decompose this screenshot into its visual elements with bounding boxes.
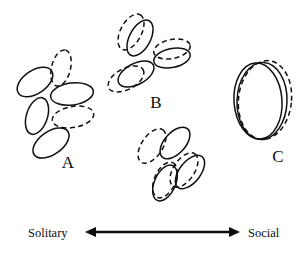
ellipse-diagram: A B C Solitary Social — [0, 0, 302, 254]
solitary-social-axis — [85, 227, 240, 237]
ellipse-b-6-solid — [114, 56, 158, 93]
ellipse-c-1-solid — [231, 61, 284, 140]
ellipse-b-7-dashed — [132, 124, 171, 168]
ellipse-a-3-solid — [49, 80, 95, 108]
ellipse-b-5-dashed — [104, 61, 148, 98]
cluster-label-b: B — [150, 93, 161, 112]
axis-label-solitary: Solitary — [28, 226, 68, 240]
arrowhead-right-icon — [229, 227, 240, 237]
cluster-c — [231, 58, 295, 142]
cluster-a — [12, 48, 96, 164]
ellipse-b-2-solid — [122, 16, 159, 60]
ellipse-c-2-solid — [236, 62, 289, 141]
cluster-label-c: C — [272, 147, 283, 166]
axis-label-social: Social — [248, 226, 280, 240]
cluster-label-a: A — [62, 153, 75, 172]
figure-canvas: A B C Solitary Social — [0, 0, 302, 254]
arrowhead-left-icon — [85, 227, 96, 237]
ellipse-a-5-dashed — [50, 103, 95, 131]
